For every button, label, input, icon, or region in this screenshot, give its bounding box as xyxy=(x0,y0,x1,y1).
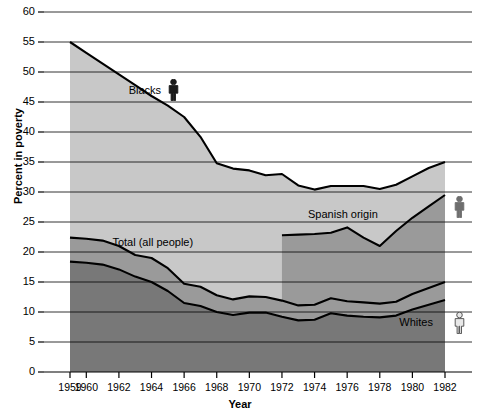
poverty-chart: Percent in poverty Year 0510152025303540… xyxy=(0,0,480,417)
person-icon xyxy=(453,312,466,334)
y-tick-label: 5 xyxy=(9,336,35,347)
person-icon-dark xyxy=(167,79,180,101)
person-icon-light xyxy=(453,312,466,334)
y-tick-label: 40 xyxy=(9,126,35,137)
y-tick-label: 0 xyxy=(9,366,35,377)
y-tick-label: 20 xyxy=(9,246,35,257)
y-tick-label: 35 xyxy=(9,156,35,167)
plot-area xyxy=(0,0,480,417)
person-icon xyxy=(453,196,466,218)
y-tick-label: 25 xyxy=(9,216,35,227)
x-axis-title: Year xyxy=(0,398,480,410)
series-label-text: Total (all people) xyxy=(112,236,193,248)
y-tick-label: 30 xyxy=(9,186,35,197)
series-label-total-all-people: Total (all people) xyxy=(112,236,193,248)
y-tick-label: 55 xyxy=(9,36,35,47)
y-tick-label: 45 xyxy=(9,96,35,107)
y-tick-label: 50 xyxy=(9,66,35,77)
x-tick-label: 1982 xyxy=(425,381,465,393)
person-icon xyxy=(167,79,180,101)
series-label-spanish-origin: Spanish origin xyxy=(308,208,378,220)
series-label-blacks: Blacks xyxy=(129,79,180,101)
y-tick-label: 15 xyxy=(9,276,35,287)
y-tick-label: 10 xyxy=(9,306,35,317)
series-label-text: Spanish origin xyxy=(308,208,378,220)
series-label-whites: Whites xyxy=(399,316,433,328)
series-label-text: Blacks xyxy=(129,84,161,96)
y-tick-label: 60 xyxy=(9,6,35,17)
person-icon-medium xyxy=(453,196,466,218)
series-label-text: Whites xyxy=(399,316,433,328)
